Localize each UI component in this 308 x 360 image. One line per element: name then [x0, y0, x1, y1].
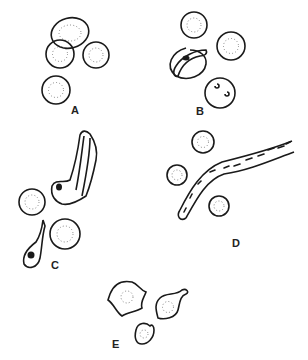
panel-e [108, 282, 188, 345]
panel-b [170, 12, 245, 108]
figure-canvas: .c { fill:none; stroke:#1a1a1a; stroke-w… [0, 0, 308, 360]
panel-a [42, 14, 109, 104]
panel-d [167, 131, 294, 219]
panel-c [19, 131, 97, 267]
panel-label-c: C [51, 259, 59, 271]
panel-label-d: D [232, 237, 240, 249]
panel-label-a: A [71, 104, 79, 116]
panel-label-e: E [112, 338, 119, 350]
panel-label-b: B [196, 105, 204, 117]
